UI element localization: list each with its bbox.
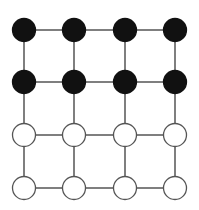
filled-node (63, 19, 86, 42)
filled-node (63, 71, 86, 94)
filled-node (164, 71, 187, 94)
filled-node (114, 71, 137, 94)
empty-node (63, 124, 86, 147)
filled-node (114, 19, 137, 42)
empty-node (114, 177, 137, 200)
grid-graph-diagram (0, 0, 199, 210)
empty-node (164, 124, 187, 147)
empty-node (114, 124, 137, 147)
edges (24, 30, 175, 188)
empty-node (13, 124, 36, 147)
empty-node (63, 177, 86, 200)
nodes (13, 19, 187, 200)
filled-node (164, 19, 187, 42)
filled-node (13, 19, 36, 42)
filled-node (13, 71, 36, 94)
empty-node (13, 177, 36, 200)
empty-node (164, 177, 187, 200)
